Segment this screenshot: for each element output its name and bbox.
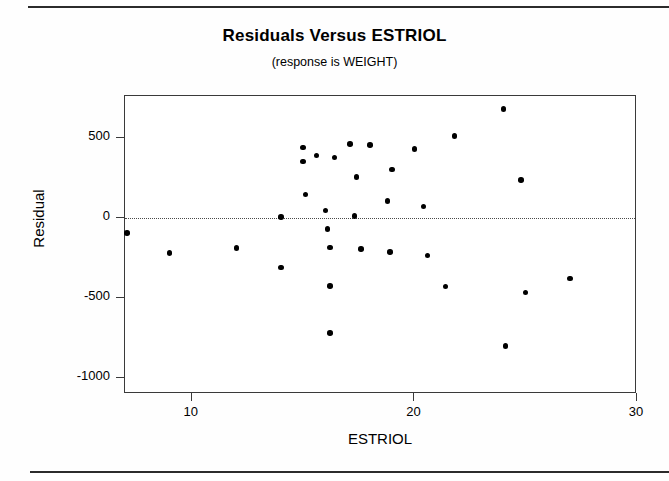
- scatter-point: [234, 245, 240, 251]
- scatter-point: [300, 145, 306, 151]
- scatter-point: [385, 198, 391, 204]
- scatter-point: [167, 250, 173, 256]
- chart-title: Residuals Versus ESTRIOL: [0, 26, 669, 46]
- scatter-point: [358, 246, 364, 252]
- scatter-point: [352, 213, 358, 219]
- x-axis-title: ESTRIOL: [124, 430, 636, 447]
- x-axis-tick: [191, 393, 192, 401]
- y-axis-tick-label: -500: [40, 288, 110, 303]
- scatter-point: [323, 208, 329, 214]
- scatter-point: [300, 159, 306, 165]
- scatter-point: [347, 141, 353, 147]
- scatter-point: [518, 177, 524, 183]
- scatter-point: [325, 226, 331, 232]
- scatter-point: [367, 142, 373, 148]
- scatter-point: [327, 245, 333, 251]
- x-axis-tick: [413, 393, 414, 401]
- scatter-point: [443, 284, 449, 290]
- x-axis-tick-label: 30: [606, 404, 666, 419]
- scatter-point: [501, 106, 507, 112]
- scatter-point: [421, 204, 427, 210]
- scatter-points-layer: [125, 96, 635, 392]
- top-divider-rule: [28, 6, 669, 8]
- chart-subtitle: (response is WEIGHT): [0, 55, 669, 69]
- y-axis-tick: [116, 137, 124, 138]
- y-axis-tick: [116, 217, 124, 218]
- bottom-divider-rule: [30, 471, 669, 473]
- scatter-point: [503, 343, 509, 349]
- scatter-point: [452, 133, 458, 139]
- scatter-point: [332, 155, 338, 161]
- scatter-point: [567, 276, 573, 282]
- zero-reference-line: [125, 218, 635, 219]
- x-axis-tick: [636, 393, 637, 401]
- scatter-point: [412, 146, 418, 152]
- scatter-point: [314, 153, 320, 159]
- scatter-point: [303, 192, 309, 198]
- y-axis-tick: [116, 377, 124, 378]
- y-axis-tick-label: 500: [40, 128, 110, 143]
- x-axis-tick-label: 20: [383, 404, 443, 419]
- scatter-point: [327, 330, 333, 336]
- y-axis-tick-label: -1000: [40, 368, 110, 383]
- scatter-point: [425, 253, 431, 259]
- scatter-point: [124, 230, 130, 236]
- scatter-point: [389, 167, 395, 173]
- scatter-point: [278, 265, 284, 271]
- x-axis-tick-label: 10: [161, 404, 221, 419]
- y-axis-tick-label: 0: [40, 208, 110, 223]
- scatter-point: [327, 283, 333, 289]
- figure-page: Residuals Versus ESTRIOL (response is WE…: [0, 0, 669, 481]
- scatter-point: [523, 290, 529, 296]
- scatter-point: [278, 214, 284, 220]
- scatter-point: [354, 174, 360, 180]
- y-axis-tick: [116, 297, 124, 298]
- y-axis-title: Residual: [30, 159, 47, 279]
- plot-area: [124, 95, 636, 393]
- scatter-point: [387, 249, 393, 255]
